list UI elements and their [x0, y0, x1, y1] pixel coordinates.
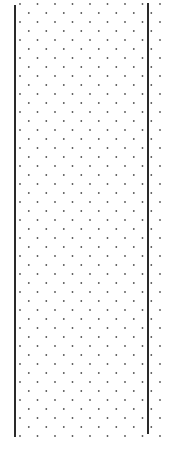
dot-pattern — [0, 0, 170, 449]
dotted-strip — [0, 0, 170, 449]
